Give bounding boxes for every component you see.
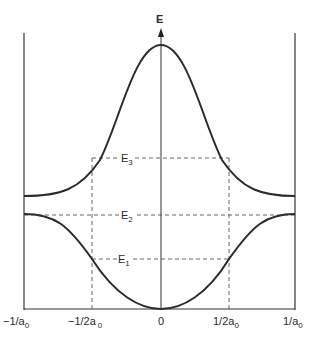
energy-axis-arrow-icon [158, 28, 164, 37]
tick-half-over-a0: 1/2a0 [213, 315, 239, 330]
dashed-guides [24, 158, 295, 309]
lower-band-curve [24, 214, 295, 309]
energy-axis-label: E [156, 13, 163, 25]
tick-neg-half-over-a0: −1/2a0 [68, 315, 103, 330]
band-diagram: E E3 E2 E1 −1/a0 −1/2a0 0 1/2a0 1/a0 [0, 0, 315, 344]
tick-1-over-a0: 1/a0 [283, 315, 303, 330]
e2-label: E2 [121, 209, 133, 224]
upper-band-curve [24, 45, 295, 196]
e3-label: E3 [121, 152, 133, 167]
tick-neg-1-over-a0: −1/a0 [3, 315, 30, 330]
e1-label: E1 [118, 253, 130, 268]
tick-zero: 0 [158, 315, 164, 327]
